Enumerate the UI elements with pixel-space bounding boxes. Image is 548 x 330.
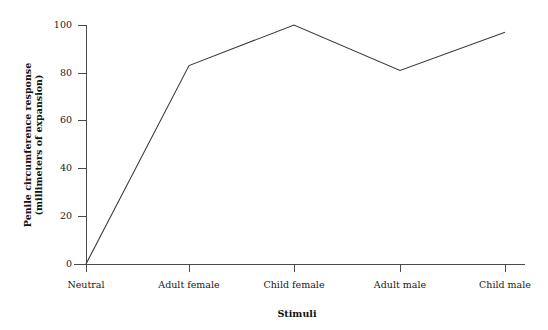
x-tick-label-child-female: Child female: [263, 279, 324, 290]
y-axis-title-line-2: (millimeters of expansion): [33, 74, 44, 215]
y-tick-label-80: 80: [60, 67, 72, 78]
y-tick-label-40: 40: [60, 162, 72, 173]
x-tick-marks: [86, 264, 505, 272]
y-tick-label-60: 60: [60, 114, 72, 125]
x-axis-title: Stimuli: [277, 308, 316, 319]
x-tick-label-adult-female: Adult female: [157, 279, 220, 290]
data-series-line: [86, 25, 505, 264]
y-tick-label-100: 100: [54, 19, 72, 30]
chart-page: 0 20 40 60 80 100 Neutral Adult female C…: [0, 0, 548, 330]
y-axis-title: Penile circumference response (millimete…: [22, 63, 44, 227]
x-tick-label-neutral: Neutral: [67, 279, 104, 290]
x-tick-label-child-male: Child male: [479, 279, 531, 290]
y-tick-label-0: 0: [66, 258, 72, 269]
x-tick-label-adult-male: Adult male: [373, 279, 427, 290]
y-tick-label-20: 20: [60, 210, 72, 221]
y-axis-title-line-1: Penile circumference response: [22, 63, 33, 227]
y-tick-marks: [78, 25, 86, 264]
line-chart: 0 20 40 60 80 100 Neutral Adult female C…: [0, 0, 548, 330]
